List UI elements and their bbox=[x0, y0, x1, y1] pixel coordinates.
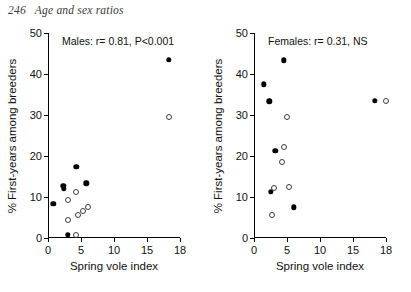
plot-area-females: Females: r= 0.31, NS % First-years among… bbox=[254, 33, 386, 238]
x-tick bbox=[81, 238, 82, 242]
y-tick bbox=[250, 74, 254, 75]
data-point-open bbox=[284, 114, 290, 120]
y-tick-label: 30 bbox=[30, 110, 42, 121]
data-point-filled bbox=[74, 164, 79, 169]
x-tick bbox=[254, 238, 255, 242]
annotation-females: Females: r= 0.31, NS bbox=[268, 35, 368, 47]
data-point-filled bbox=[272, 148, 277, 153]
x-tick-label: 18 bbox=[380, 245, 392, 256]
y-tick bbox=[250, 156, 254, 157]
x-tick bbox=[353, 238, 354, 242]
running-head: 246Age and sex ratios bbox=[8, 4, 124, 16]
data-point-open bbox=[383, 98, 389, 104]
running-title: Age and sex ratios bbox=[35, 4, 124, 16]
y-tick-label: 30 bbox=[236, 110, 248, 121]
data-point-open bbox=[166, 114, 172, 120]
x-tick-label: 5 bbox=[78, 245, 84, 256]
y-axis-line bbox=[48, 33, 49, 238]
y-tick-label: 20 bbox=[236, 151, 248, 162]
x-tick-label: 5 bbox=[284, 245, 290, 256]
data-point-filled bbox=[281, 58, 286, 63]
y-axis-label: % First-years among breeders bbox=[212, 58, 224, 213]
data-point-filled bbox=[291, 205, 296, 210]
y-tick-label: 50 bbox=[30, 28, 42, 39]
x-axis-label: Spring vole index bbox=[70, 260, 158, 272]
data-point-open bbox=[269, 212, 275, 218]
x-tick-label: 15 bbox=[141, 245, 153, 256]
x-tick bbox=[114, 238, 115, 242]
y-tick bbox=[250, 33, 254, 34]
page-number: 246 bbox=[8, 4, 26, 16]
data-point-open bbox=[65, 197, 71, 203]
figure-scatter-panels: Males: r= 0.81, P<0.001 % First-years am… bbox=[0, 22, 411, 292]
data-point-filled bbox=[166, 57, 171, 62]
x-tick-label: 15 bbox=[347, 245, 359, 256]
y-tick-label: 0 bbox=[36, 233, 42, 244]
y-axis-line bbox=[254, 33, 255, 238]
data-point-open bbox=[281, 144, 287, 150]
x-tick bbox=[287, 238, 288, 242]
y-tick-label: 0 bbox=[242, 233, 248, 244]
data-point-filled bbox=[372, 98, 377, 103]
data-point-open bbox=[271, 185, 277, 191]
x-tick-label: 0 bbox=[45, 245, 51, 256]
panel-males: Males: r= 0.81, P<0.001 % First-years am… bbox=[2, 22, 202, 292]
y-tick bbox=[44, 156, 48, 157]
x-tick bbox=[320, 238, 321, 242]
data-point-filled bbox=[266, 99, 271, 104]
data-point-open bbox=[65, 217, 71, 223]
y-tick bbox=[250, 115, 254, 116]
data-point-open bbox=[286, 184, 292, 190]
x-tick-label: 0 bbox=[251, 245, 257, 256]
data-point-open bbox=[85, 204, 91, 210]
data-point-filled bbox=[61, 186, 66, 191]
y-tick-label: 20 bbox=[30, 151, 42, 162]
x-tick bbox=[180, 238, 181, 242]
data-point-filled bbox=[261, 82, 266, 87]
x-tick bbox=[48, 238, 49, 242]
x-axis-label: Spring vole index bbox=[276, 260, 364, 272]
y-axis-label: % First-years among breeders bbox=[6, 58, 18, 213]
plot-area-males: Males: r= 0.81, P<0.001 % First-years am… bbox=[48, 33, 180, 238]
y-tick bbox=[44, 115, 48, 116]
y-tick bbox=[44, 74, 48, 75]
y-tick bbox=[44, 197, 48, 198]
data-point-open bbox=[73, 232, 79, 238]
x-tick-label: 10 bbox=[314, 245, 326, 256]
x-tick bbox=[386, 238, 387, 242]
annotation-males: Males: r= 0.81, P<0.001 bbox=[62, 35, 174, 47]
y-tick bbox=[44, 33, 48, 34]
y-tick-label: 10 bbox=[30, 192, 42, 203]
data-point-filled bbox=[51, 201, 56, 206]
data-point-open bbox=[73, 189, 79, 195]
data-point-open bbox=[279, 159, 285, 165]
data-point-filled bbox=[84, 181, 89, 186]
y-tick-label: 50 bbox=[236, 28, 248, 39]
x-tick bbox=[147, 238, 148, 242]
y-tick-label: 40 bbox=[30, 69, 42, 80]
y-tick bbox=[250, 197, 254, 198]
y-tick-label: 10 bbox=[236, 192, 248, 203]
y-tick-label: 40 bbox=[236, 69, 248, 80]
x-tick-label: 18 bbox=[174, 245, 186, 256]
panel-females: Females: r= 0.31, NS % First-years among… bbox=[208, 22, 408, 292]
x-tick-label: 10 bbox=[108, 245, 120, 256]
